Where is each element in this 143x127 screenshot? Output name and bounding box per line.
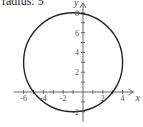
y-tick-label: 8 [75, 9, 79, 18]
y-tick-label: 2 [75, 68, 79, 77]
x-tick-label: -6 [20, 94, 27, 103]
y-tick-label: 6 [75, 29, 79, 38]
x-tick-label: -2 [60, 94, 67, 103]
x-axis-label: x [134, 92, 140, 103]
axes [14, 3, 134, 122]
x-tick-label: -4 [40, 94, 47, 103]
x-tick-label: 4 [121, 94, 125, 103]
x-tick-label: 2 [101, 94, 105, 103]
circle-plot: -6-4-224-22468xy [0, 0, 143, 127]
y-axis-label: y [73, 0, 79, 8]
y-tick-label: -2 [72, 108, 79, 117]
circle-curve [24, 13, 123, 112]
y-tick-label: 4 [75, 48, 79, 57]
